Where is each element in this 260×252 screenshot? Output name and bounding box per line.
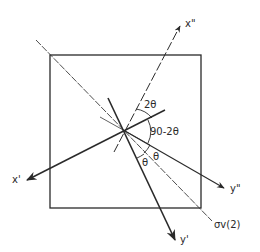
label-theta-upper: θ: [153, 151, 159, 162]
label-y-double-prime: y": [230, 183, 241, 194]
label-two-theta: 2θ: [144, 99, 156, 110]
arc-theta-upper: [144, 145, 150, 153]
label-theta-lower: θ: [142, 157, 148, 168]
label-ninety-minus-two-theta: 90-2θ: [150, 126, 179, 137]
y-prime-axis: [108, 98, 175, 240]
arc-two-theta: [136, 109, 152, 118]
y-double-prime-axis: [125, 131, 224, 188]
label-x-double-prime: x": [185, 18, 196, 29]
label-sigma-v2: σv(2): [214, 219, 241, 230]
x-prime-axis: [27, 110, 165, 180]
label-x-prime: x': [12, 174, 21, 185]
label-y-prime: y': [180, 234, 189, 245]
diagram-canvas: x" y" x' y' σv(2) 2θ 90-2θ θ θ: [0, 0, 260, 252]
